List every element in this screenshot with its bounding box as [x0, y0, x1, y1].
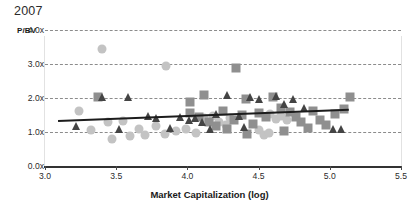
x-tick-label-3.5: 3.5 — [110, 171, 122, 181]
data-point-triangle — [223, 91, 231, 99]
data-point-circle — [162, 61, 171, 70]
x-tick-label-4.0: 4.0 — [181, 171, 193, 181]
data-point-circle — [152, 121, 161, 130]
data-point-triangle — [255, 95, 263, 103]
x-tick-label-5.0: 5.0 — [324, 171, 336, 181]
data-point-triangle — [289, 95, 297, 103]
data-point-triangle — [246, 93, 254, 101]
x-tick-mark-4.0 — [187, 166, 188, 170]
data-point-circle — [107, 135, 116, 144]
data-point-square — [248, 119, 257, 128]
gridline-y-3.0x — [45, 64, 401, 65]
chart-container: 2007 P/BV Market Capitalization (log) 0.… — [0, 0, 419, 212]
x-tick-label-4.5: 4.5 — [253, 171, 265, 181]
data-point-triangle — [115, 125, 123, 133]
x-tick-mark-5.5 — [401, 166, 402, 170]
data-point-square — [231, 64, 240, 73]
y-tick-label: 4.0x — [18, 25, 44, 35]
data-point-triangle — [124, 93, 132, 101]
x-tick-mark-5.0 — [330, 166, 331, 170]
data-point-circle — [140, 130, 149, 139]
data-point-circle — [191, 128, 200, 137]
data-point-triangle — [272, 92, 280, 100]
plot-right-border — [401, 36, 402, 167]
data-point-triangle — [329, 125, 337, 133]
chart-title: 2007 — [14, 4, 43, 18]
data-point-square — [280, 127, 289, 136]
x-tick-mark-3.0 — [45, 166, 46, 170]
y-tick-label: 3.0x — [18, 59, 44, 69]
plot-area — [45, 30, 401, 166]
data-point-triangle — [206, 125, 214, 133]
data-point-triangle — [240, 123, 248, 131]
x-tick-mark-3.5 — [116, 166, 117, 170]
data-point-circle — [97, 44, 106, 53]
data-point-triangle — [337, 125, 345, 133]
data-point-square — [200, 90, 209, 99]
data-point-triangle — [98, 93, 106, 101]
data-point-square — [223, 125, 232, 134]
data-point-circle — [75, 106, 84, 115]
y-tick-label: 0.0x — [18, 161, 44, 171]
data-point-circle — [181, 124, 190, 133]
x-tick-label-3.0: 3.0 — [39, 171, 51, 181]
data-point-triangle — [198, 118, 206, 126]
x-axis-line — [44, 166, 402, 168]
data-point-square — [186, 98, 195, 107]
data-point-triangle — [166, 124, 174, 132]
y-tick-label: 1.0x — [18, 127, 44, 137]
gridline-y-4.0x — [45, 30, 401, 31]
data-point-circle — [86, 126, 95, 135]
data-point-triangle — [72, 122, 80, 130]
x-tick-label-5.5: 5.5 — [395, 171, 407, 181]
data-point-square — [345, 92, 354, 101]
data-point-square — [304, 123, 313, 132]
x-tick-mark-4.5 — [259, 166, 260, 170]
x-axis-title: Market Capitalization (log) — [0, 189, 419, 200]
data-point-circle — [264, 128, 273, 137]
y-tick-label: 2.0x — [18, 93, 44, 103]
data-point-triangle — [280, 100, 288, 108]
data-point-circle — [126, 132, 135, 141]
